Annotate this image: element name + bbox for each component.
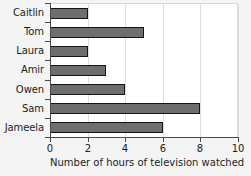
y-tick [45, 60, 50, 61]
plot-area [50, 3, 238, 137]
category-label-laura: Laura [0, 41, 47, 60]
bar-slot [50, 80, 237, 99]
bar-owen [50, 84, 125, 95]
x-tick-label: 10 [226, 143, 250, 154]
category-label-jameela: Jameela [0, 118, 47, 137]
bar-sam [50, 103, 200, 114]
bars-layer [50, 4, 237, 137]
x-tick-label: 4 [113, 143, 137, 154]
x-tick [163, 138, 164, 142]
gridline [238, 4, 239, 137]
y-tick [45, 80, 50, 81]
category-label-tom: Tom [0, 22, 47, 41]
x-tick-label: 8 [188, 143, 212, 154]
category-label-owen: Owen [0, 80, 47, 99]
category-axis: Caitlin Tom Laura Amir Owen Sam Jameela [0, 3, 47, 137]
x-tick [88, 138, 89, 142]
bar-slot [50, 118, 237, 137]
y-tick [45, 99, 50, 100]
bar-slot [50, 61, 237, 80]
x-tick-label: 2 [76, 143, 100, 154]
y-tick [45, 118, 50, 119]
y-axis-line [50, 3, 51, 138]
bar-slot [50, 23, 237, 42]
x-tick [200, 138, 201, 142]
bar-laura [50, 46, 88, 57]
y-tick [45, 3, 50, 4]
category-label-amir: Amir [0, 60, 47, 79]
bar-tom [50, 27, 144, 38]
bar-jameela [50, 122, 163, 133]
bar-amir [50, 65, 106, 76]
bar-chart: Caitlin Tom Laura Amir Owen Sam Jameela … [0, 0, 251, 176]
x-axis-line [50, 137, 239, 138]
x-tick [238, 138, 239, 142]
bar-slot [50, 42, 237, 61]
bar-slot [50, 99, 237, 118]
y-tick [45, 41, 50, 42]
category-label-sam: Sam [0, 99, 47, 118]
y-tick [45, 137, 50, 138]
x-axis-title: Number of hours of television watched [50, 157, 239, 168]
x-tick [125, 138, 126, 142]
x-tick-label: 0 [38, 143, 62, 154]
bar-caitlin [50, 8, 88, 19]
x-tick-label: 6 [151, 143, 175, 154]
category-label-caitlin: Caitlin [0, 3, 47, 22]
y-tick [45, 22, 50, 23]
x-tick [50, 138, 51, 142]
bar-slot [50, 4, 237, 23]
